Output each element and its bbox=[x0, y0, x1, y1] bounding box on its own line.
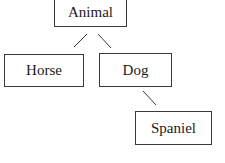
node-animal: Animal bbox=[54, 0, 127, 27]
node-spaniel-label: Spaniel bbox=[151, 120, 196, 137]
node-horse-label: Horse bbox=[26, 62, 62, 79]
edge-animal-dog bbox=[98, 34, 111, 48]
node-spaniel: Spaniel bbox=[135, 111, 212, 145]
node-animal-label: Animal bbox=[68, 4, 113, 21]
node-dog: Dog bbox=[99, 53, 172, 87]
edge-animal-horse bbox=[74, 34, 87, 47]
node-horse: Horse bbox=[4, 54, 84, 87]
edge-dog-spaniel bbox=[143, 91, 156, 105]
node-dog-label: Dog bbox=[123, 62, 149, 79]
